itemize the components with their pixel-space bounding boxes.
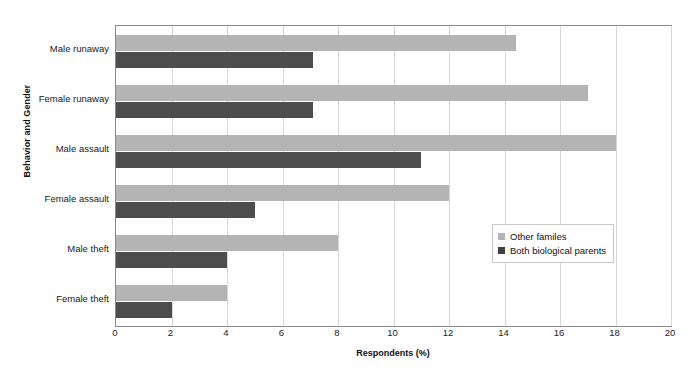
x-tick-label: 18 xyxy=(600,327,630,338)
bars-layer xyxy=(116,26,671,326)
bar xyxy=(116,252,227,268)
bar xyxy=(116,102,313,118)
y-axis-category-label: Male runaway xyxy=(18,43,109,54)
bar xyxy=(116,135,616,151)
x-tick-label: 4 xyxy=(211,327,241,338)
bar-chart-figure: Behavior and Gender Male runawayFemale r… xyxy=(0,0,693,382)
x-tick-label: 2 xyxy=(156,327,186,338)
bar xyxy=(116,202,255,218)
x-tick-label: 10 xyxy=(378,327,408,338)
bar xyxy=(116,285,227,301)
bar xyxy=(116,152,421,168)
y-axis-category-label: Female theft xyxy=(18,293,109,304)
legend-item: Both biological parents xyxy=(498,243,606,257)
legend-swatch-icon xyxy=(498,233,505,240)
x-tick-label: 16 xyxy=(544,327,574,338)
bar xyxy=(116,185,449,201)
x-tick-label: 14 xyxy=(489,327,519,338)
bar xyxy=(116,35,516,51)
y-axis-category-label: Male assault xyxy=(18,143,109,154)
y-axis-category-label: Female runaway xyxy=(18,93,109,104)
legend-label: Other familes xyxy=(510,231,567,242)
legend-label: Both biological parents xyxy=(510,245,606,256)
bar xyxy=(116,85,588,101)
legend-item: Other familes xyxy=(498,229,606,243)
bar xyxy=(116,52,313,68)
chart-legend: Other familesBoth biological parents xyxy=(492,224,614,263)
x-axis-tick-labels: 02468101214161820 xyxy=(115,327,671,345)
bar xyxy=(116,302,172,318)
x-tick-label: 12 xyxy=(433,327,463,338)
legend-swatch-icon xyxy=(498,247,505,254)
x-tick-label: 6 xyxy=(267,327,297,338)
x-tick-label: 0 xyxy=(100,327,130,338)
y-axis-category-labels: Male runawayFemale runawayMale assaultFe… xyxy=(18,25,109,325)
gridline xyxy=(671,26,672,326)
y-axis-category-label: Male theft xyxy=(18,243,109,254)
plot-area xyxy=(115,25,672,327)
y-axis-category-label: Female assault xyxy=(18,193,109,204)
bar xyxy=(116,235,338,251)
x-tick-label: 8 xyxy=(322,327,352,338)
x-tick-label: 20 xyxy=(655,327,685,338)
x-axis-title: Respondents (%) xyxy=(115,348,671,358)
